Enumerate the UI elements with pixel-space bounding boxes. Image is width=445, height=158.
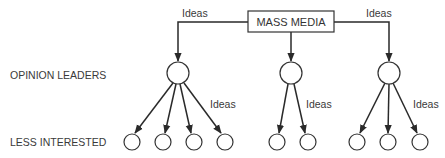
opinion-leader-node-2 bbox=[280, 62, 302, 84]
follower-node bbox=[217, 134, 233, 150]
edge-media-to-leader-3 bbox=[334, 22, 389, 61]
row-label-opinion-leaders: OPINION LEADERS bbox=[10, 69, 106, 81]
two-step-flow-diagram: OPINION LEADERS LESS INTERESTED Ideas Id… bbox=[0, 0, 445, 158]
opinion-leader-node-3 bbox=[378, 62, 400, 84]
edge-label-ideas-group-3: Ideas bbox=[413, 98, 439, 110]
follower-node bbox=[269, 134, 285, 150]
group-2-edges bbox=[279, 84, 305, 133]
follower-node bbox=[155, 134, 171, 150]
group-1-edges bbox=[135, 83, 221, 133]
edge-leader-3-to-follower-2 bbox=[388, 84, 389, 133]
follower-node bbox=[412, 134, 428, 150]
follower-node bbox=[124, 134, 140, 150]
edge-label-ideas-group-1: Ideas bbox=[210, 98, 236, 110]
follower-node bbox=[349, 134, 365, 150]
follower-node bbox=[380, 134, 396, 150]
edge-label-ideas-left: Ideas bbox=[182, 7, 208, 19]
edge-label-ideas-right: Ideas bbox=[366, 7, 392, 19]
follower-node bbox=[300, 134, 316, 150]
edge-media-to-leader-1 bbox=[178, 22, 248, 61]
opinion-leader-node-1 bbox=[167, 62, 189, 84]
edge-leader-2-to-follower-2 bbox=[294, 84, 305, 133]
mass-media-label: MASS MEDIA bbox=[256, 16, 326, 28]
edge-leader-2-to-follower-1 bbox=[279, 84, 288, 133]
edge-leader-3-to-follower-1 bbox=[360, 83, 385, 133]
group-3-edges bbox=[360, 83, 417, 133]
follower-node bbox=[186, 134, 202, 150]
row-label-less-interested: LESS INTERESTED bbox=[10, 136, 107, 148]
edge-label-ideas-group-2: Ideas bbox=[306, 98, 332, 110]
